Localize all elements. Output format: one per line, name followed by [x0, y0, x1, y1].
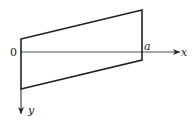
trapezoid-plate	[21, 10, 142, 89]
x-axis-label: x	[181, 46, 188, 59]
y-axis-label: y	[27, 104, 35, 117]
plate-diagram: 0 a x y	[0, 0, 196, 123]
origin-label: 0	[10, 46, 17, 59]
a-label: a	[144, 40, 151, 53]
